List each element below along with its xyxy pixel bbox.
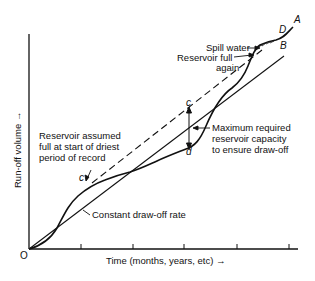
point-c-upper-label: c (186, 97, 191, 108)
point-c-lower-label: c (79, 172, 84, 183)
max-capacity-label-3: to ensure draw-off (212, 144, 288, 155)
point-d-label: D (279, 24, 286, 35)
point-a-label: A (294, 14, 301, 25)
max-capacity-label-2: reservoir capacity (212, 133, 286, 144)
point-b-label: B (280, 40, 287, 51)
max-capacity-label-1: Maximum required (212, 122, 291, 133)
x-axis-ticks (81, 244, 289, 249)
capacity-arrow (187, 107, 192, 149)
point-d-lower-label: d (186, 146, 192, 157)
assumed-full-label-3: period of record (39, 152, 106, 163)
y-axis-label: Run-off volume → (12, 112, 23, 188)
assumed-full-label-1: Reservoir assumed (39, 130, 121, 141)
origin-label: O (20, 250, 28, 261)
x-axis-label: Time (months, years, etc) → (106, 255, 225, 266)
assumed-full-label-2: full at start of driest (39, 141, 119, 152)
draw-off-rate-label: Constant draw-off rate (92, 209, 186, 220)
reservoir-full-label-2: again (216, 62, 239, 73)
